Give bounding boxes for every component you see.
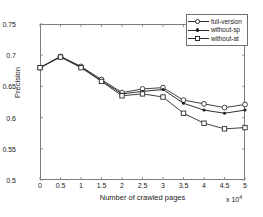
legend-marker-square-icon [188,35,209,43]
legend-label: without-sp [209,26,240,34]
legend-label: full-version [209,18,242,26]
y-tick-label: 0.55 [0,146,16,153]
x-tick-label: 5 [230,182,260,189]
x-axis-exponent: x 104 [226,196,242,204]
exponent-power: 4 [239,194,242,200]
y-axis-title: Precision [13,28,22,138]
legend-item-without-sp[interactable]: without-sp [188,26,245,34]
legend-marker-circle-icon [188,18,209,26]
chart-legend: full-version without-sp without-at [186,14,248,46]
legend-item-full-version[interactable]: full-version [188,18,245,26]
x-axis-title: Number of crawled pages [40,193,245,202]
exponent-base: x 10 [226,196,239,203]
legend-item-without-at[interactable]: without-at [188,35,245,43]
chart-figure: 0.75 0.7 0.65 0.6 0.55 0.5 0 0.5 1 1.5 2… [0,0,263,217]
plot-area [40,24,245,180]
y-tick-label: 0.5 [0,177,16,184]
legend-marker-dot-icon [188,26,209,34]
legend-label: without-at [209,35,239,43]
